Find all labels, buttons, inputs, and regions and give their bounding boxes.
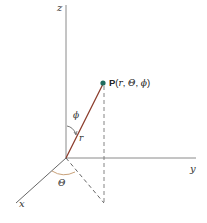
x-axis-label: x xyxy=(19,199,25,209)
spherical-coordinates-diagram xyxy=(0,0,207,223)
z-axis-label: z xyxy=(57,3,62,13)
phi-angle-label: ϕ xyxy=(73,111,79,120)
theta-angle-label: Θ xyxy=(58,179,65,188)
coord-theta: Θ xyxy=(128,78,135,88)
radius-line xyxy=(66,84,103,158)
theta-angle-arc xyxy=(52,171,75,175)
horizontal-projection-dashed xyxy=(66,158,104,203)
paren-close: ) xyxy=(147,77,150,88)
radius-label: r xyxy=(79,134,83,143)
point-p-marker xyxy=(100,80,105,85)
y-axis-label: y xyxy=(190,164,196,174)
point-p-label: P(r, Θ, ϕ) xyxy=(109,78,150,88)
